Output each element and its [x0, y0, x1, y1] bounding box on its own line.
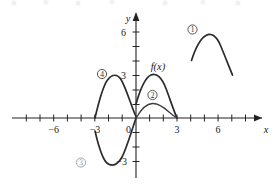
badge-4-marker: 4 [97, 69, 106, 78]
x-axis-arrow [254, 115, 262, 122]
y-tick-label-6: 6 [121, 27, 126, 38]
badge-3-number: 3 [79, 158, 83, 167]
x-tick-label-neg3: −3 [90, 124, 101, 135]
badge-1-number: 1 [191, 25, 195, 34]
x-axis-label: x [263, 124, 269, 135]
x-tick-label-neg6: −6 [48, 124, 59, 135]
badge-3-marker: 3 [76, 158, 85, 167]
fx-label: f(x) [151, 61, 166, 73]
y-axis-arrow [133, 12, 140, 21]
y-axis-label: y [125, 13, 131, 24]
curve-1-path [192, 34, 233, 75]
graph-canvas: y x −6 −3 3 6 0 6 3 −3 f(x) 1 2 3 [0, 0, 278, 186]
curve-2-path [137, 103, 177, 118]
origin-label: 0 [126, 124, 131, 135]
badge-4-number: 4 [100, 70, 104, 79]
x-tick-label-6: 6 [216, 124, 221, 135]
badge-2-marker: 2 [148, 90, 157, 99]
curve-4-path [95, 75, 136, 118]
badge-2-number: 2 [151, 91, 155, 100]
y-tick-label-neg3: −3 [116, 156, 127, 167]
badge-1-marker: 1 [188, 25, 197, 34]
y-tick-label-3: 3 [121, 70, 126, 81]
x-tick-label-3: 3 [175, 124, 180, 135]
piecewise-graph-figure: y x −6 −3 3 6 0 6 3 −3 f(x) 1 2 3 [0, 0, 278, 186]
